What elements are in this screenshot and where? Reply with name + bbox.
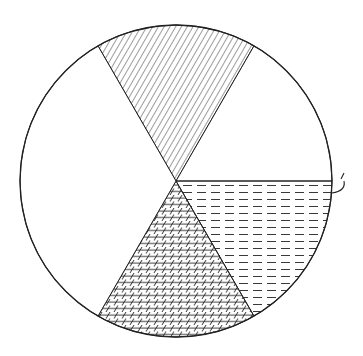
sectors-group	[20, 25, 332, 337]
hook-mark	[332, 173, 344, 193]
pie-diagram	[0, 0, 363, 356]
